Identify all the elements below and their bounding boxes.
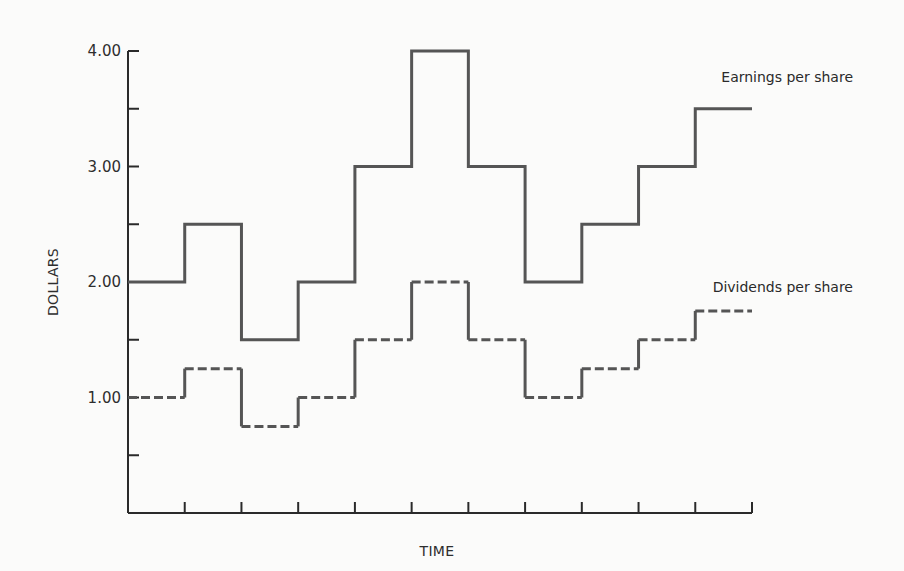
earnings-series-label: Earnings per share [721, 69, 853, 85]
y-axis-label: DOLLARS [45, 248, 61, 316]
step-chart: 1.002.003.004.00 DOLLARS TIME Earnings p… [0, 0, 904, 571]
y-tick-label: 4.00 [88, 42, 121, 60]
earnings-series [128, 51, 752, 340]
y-tick-label: 1.00 [88, 389, 121, 407]
y-axis: 1.002.003.004.00 [88, 42, 139, 513]
x-axis-label: TIME [419, 543, 455, 559]
series-group [128, 51, 752, 426]
y-tick-label: 2.00 [88, 273, 121, 291]
x-axis [128, 502, 752, 513]
dividends-series [128, 282, 752, 426]
dividends-series-label: Dividends per share [713, 279, 853, 295]
earnings-step-line [128, 51, 752, 340]
y-tick-label: 3.00 [88, 158, 121, 176]
